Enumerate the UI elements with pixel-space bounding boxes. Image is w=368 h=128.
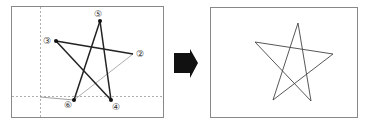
label-5: ⑤ (94, 9, 102, 19)
point-3-dot (54, 39, 58, 43)
label-2: ② (136, 49, 144, 59)
left-panel-border (12, 7, 164, 118)
label-6: ⑥ (64, 100, 72, 110)
left-panel: ⑤ ③ ② ⑥ ④ (12, 7, 164, 118)
point-6-dot (72, 98, 76, 102)
label-3: ③ (43, 36, 51, 46)
diagram-canvas: ⑤ ③ ② ⑥ ④ (0, 0, 368, 128)
right-arrow-icon (174, 49, 198, 78)
label-4: ④ (112, 102, 120, 112)
right-panel (211, 8, 358, 118)
right-panel-border (211, 8, 358, 118)
point-5-dot (98, 19, 102, 23)
